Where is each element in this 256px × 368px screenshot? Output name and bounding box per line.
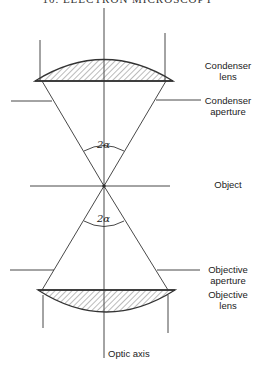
label-condenser-aperture: Condenser aperture	[200, 95, 256, 117]
label-condenser-lens: Condenser lens	[200, 60, 256, 82]
objective-lens	[38, 290, 175, 312]
beam-upper-left	[42, 81, 104, 186]
condenser-lens	[35, 60, 173, 82]
angle-label-bottom: 2α	[97, 213, 110, 224]
label-objective-lens: Objective lens	[200, 289, 256, 311]
angle-label-top: 2α	[97, 139, 110, 150]
label-optic-axis: Optic axis	[108, 348, 150, 359]
label-objective-aperture: Objective aperture	[200, 264, 256, 286]
label-object: Object	[200, 179, 256, 190]
beam-lower-right	[104, 186, 168, 290]
beam-upper-right	[104, 81, 166, 186]
beam-lower-left	[42, 186, 104, 290]
